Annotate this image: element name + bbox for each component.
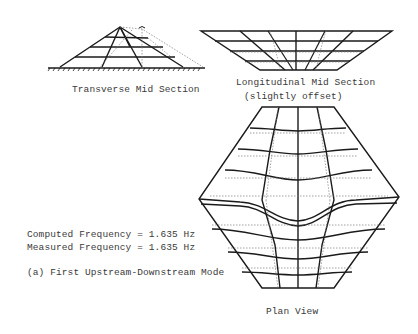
figure-caption: (a) First Upstream-Downstream Mode: [27, 267, 224, 278]
longitudinal-section-subtitle: (slightly offset): [244, 91, 343, 102]
plan-view-diagram: [0, 0, 418, 334]
transverse-section-title: Transverse Mid Section: [72, 84, 200, 95]
measured-frequency-text: Measured Frequency = 1.635 Hz: [27, 242, 195, 253]
longitudinal-section-title: Longitudinal Mid Section: [236, 77, 375, 88]
computed-frequency-text: Computed Frequency = 1.635 Hz: [27, 229, 195, 240]
plan-view-title: Plan View: [266, 306, 318, 317]
figure-canvas: Transverse Mid Section Longitudinal Mid …: [0, 0, 418, 334]
